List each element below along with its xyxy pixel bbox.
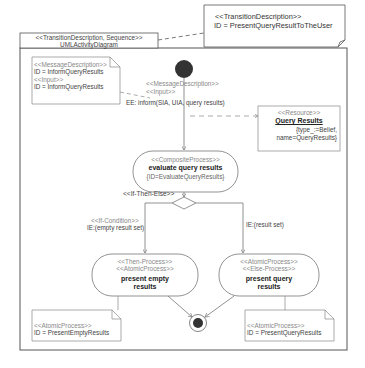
decision-stereotype: <<If-Then-Else>> <box>123 190 174 198</box>
initial-node[interactable] <box>175 60 193 78</box>
else-process: <<AtomicProcess>> <<Else-Process>> prese… <box>219 258 319 291</box>
resource-name: Query Results <box>258 117 340 125</box>
initial-edge-stereotype1: <<MessageDescription>> <box>146 80 219 87</box>
frame-label: <<TransitionDescription, Sequence>> UMLA… <box>20 34 158 49</box>
then-process: <<Then-Process>> <<AtomicProcess>> prese… <box>92 258 198 291</box>
diagram-canvas <box>0 0 365 368</box>
left-guard: <<If-Condition>> IE:(empty result set) <box>87 217 144 232</box>
top-note-link <box>158 33 204 40</box>
decision-node[interactable] <box>172 197 196 209</box>
right-guard: IE:(result set) <box>246 221 284 228</box>
initial-edge-label: EE: inform(SIA, UIA, query results) <box>126 99 225 106</box>
resource: <<Resource>> Query Results {type_:=Belie… <box>258 109 340 141</box>
else-note: <<AtomicProcess>> ID = PresentQueryResul… <box>247 322 321 337</box>
composite-process: <<CompositeProcess>> evaluate query resu… <box>133 156 238 181</box>
frame-name: UMLActivityDiagram <box>20 41 158 48</box>
then-note: <<AtomicProcess>> ID = PresentEmptyResul… <box>34 322 109 337</box>
top-note-id: ID = PresentQueryResultToTheUser <box>214 22 333 31</box>
top-note: <<TransitionDescription>> ID = PresentQu… <box>214 13 333 30</box>
initial-edge-stereotype2: <<Input>> <box>146 88 175 95</box>
composite-process-name: evaluate query results <box>133 164 238 172</box>
frame-stereotype: <<TransitionDescription, Sequence>> <box>20 34 158 41</box>
message-note: <<MessageDescription>> ID = InformQueryR… <box>34 61 107 90</box>
